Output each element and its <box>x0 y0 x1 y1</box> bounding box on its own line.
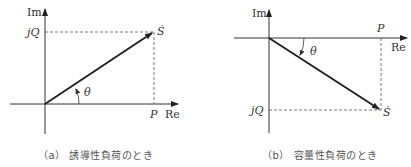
theta-label: θ <box>310 45 317 58</box>
jq-label: jQ <box>24 26 39 39</box>
re-label: Re <box>391 41 406 54</box>
p-label: P <box>376 22 385 35</box>
s-label: Ṡ <box>157 24 165 38</box>
im-label: Im <box>252 7 267 20</box>
caption-b: （b） 容量性負荷のとき <box>262 147 378 162</box>
caption-a: （a） 誘導性負荷のとき <box>38 147 153 162</box>
jq-label: jQ <box>248 104 263 117</box>
p-label: P <box>149 108 158 121</box>
phasor-diagrams: Im jQ Ṡ θ P Re Im P Re θ jQ Ṡ <box>0 0 411 167</box>
diagram-a: Im jQ Ṡ θ P Re <box>10 6 180 134</box>
theta-arc <box>76 89 79 104</box>
s-phasor <box>45 33 152 104</box>
re-label: Re <box>165 108 180 121</box>
s-phasor <box>269 38 379 109</box>
theta-arc <box>300 38 304 55</box>
theta-label: θ <box>84 86 91 99</box>
im-label: Im <box>27 6 42 19</box>
diagram-b: Im P Re θ jQ Ṡ <box>234 7 407 133</box>
s-label: Ṡ <box>383 105 391 119</box>
